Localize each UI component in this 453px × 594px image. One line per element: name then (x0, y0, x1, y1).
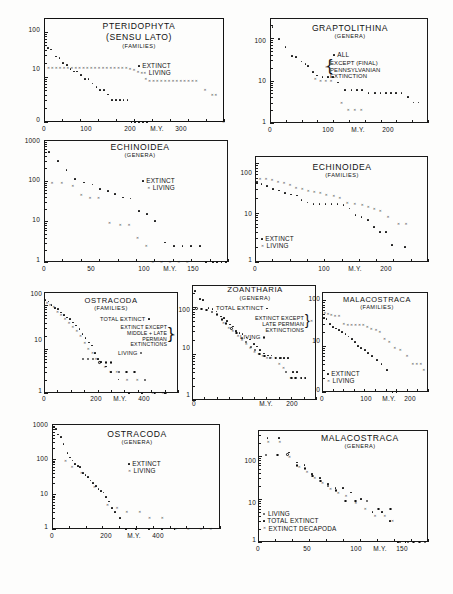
data-point: × (209, 528, 212, 531)
data-point: × (367, 206, 370, 209)
data-point (404, 246, 406, 248)
data-point: × (319, 80, 322, 83)
data-point: × (277, 181, 280, 184)
data-point: × (347, 109, 350, 112)
data-point: × (289, 184, 292, 187)
axis-tick (258, 456, 262, 457)
data-point: × (364, 508, 367, 511)
x-axis-unit-label: M.Y. (379, 396, 399, 403)
data-point: × (374, 329, 377, 332)
data-point: × (125, 511, 128, 514)
data-point (148, 528, 150, 530)
y-tick-label: 1000 (14, 138, 40, 145)
x-tick-label: 50 (84, 266, 98, 273)
axis-tick (52, 438, 55, 439)
data-point: × (325, 194, 328, 197)
data-point: × (164, 80, 167, 83)
legend: EXTINCT ×LIVING (261, 235, 294, 250)
data-point (291, 55, 293, 57)
axis-tick (255, 183, 258, 184)
data-point (332, 76, 334, 78)
axis-tick (52, 427, 55, 428)
axis-tick (258, 512, 261, 513)
legend-marker-open-circle (263, 336, 265, 338)
axis-tick (270, 55, 273, 56)
axis-tick (411, 539, 412, 542)
data-point (96, 86, 98, 88)
axis-tick (270, 18, 273, 19)
axis-tick (52, 448, 55, 449)
axis-tick (44, 367, 47, 368)
axis-tick (44, 100, 47, 101)
axis-tick (192, 378, 195, 379)
data-point: × (52, 306, 55, 309)
data-point (354, 341, 356, 343)
axis-tick (255, 178, 258, 179)
data-point: × (55, 67, 58, 70)
data-point (311, 473, 313, 475)
axis-tick (270, 45, 273, 46)
x-tick-label: 400 (150, 533, 166, 540)
data-point: × (129, 68, 132, 71)
axis-tick (258, 458, 261, 459)
data-point: × (393, 347, 396, 350)
axis-tick (84, 390, 85, 393)
data-point: × (391, 520, 394, 523)
y-tick-label: 100 (230, 170, 252, 177)
data-point: × (70, 67, 73, 70)
data-point: × (231, 330, 234, 333)
axis-tick (52, 470, 55, 471)
data-point: × (51, 182, 54, 185)
data-point: × (342, 323, 345, 326)
axis-tick (44, 187, 47, 188)
data-point: × (388, 341, 391, 344)
axis-tick (192, 356, 195, 357)
y-tick-label: 10 (302, 338, 320, 345)
axis-tick (44, 225, 47, 226)
data-point: × (278, 363, 281, 366)
legend-label: EXTINCT (142, 62, 171, 69)
data-point: × (379, 210, 382, 213)
legend-living: LIVING (118, 350, 142, 356)
axis-tick (44, 221, 48, 222)
axis-tick (99, 259, 100, 262)
axis-tick (52, 473, 55, 474)
axis-tick (206, 119, 207, 122)
data-point (272, 188, 274, 190)
axis-tick (52, 483, 55, 484)
data-point (397, 541, 399, 543)
data-point: × (288, 456, 291, 459)
data-point: × (152, 80, 155, 83)
data-point: × (60, 182, 63, 185)
axis-tick (192, 312, 195, 313)
axis-tick (44, 309, 47, 310)
axis-tick (153, 526, 154, 529)
data-point (57, 160, 59, 162)
data-point: × (97, 67, 100, 70)
y-tick-label: 0 (302, 387, 320, 394)
panel-title: OSTRACODA (84, 430, 190, 439)
axis-tick (44, 42, 47, 43)
axis-tick (44, 32, 48, 33)
panel-subtitle: (GENERA) (300, 444, 420, 450)
data-point (47, 47, 49, 49)
y-tick-label: 0 (20, 117, 40, 124)
axis-tick (44, 77, 48, 78)
axis-tick (255, 224, 258, 225)
data-point: × (378, 331, 381, 334)
axis-tick (255, 174, 258, 175)
axis-tick (136, 259, 137, 262)
axis-tick (170, 119, 171, 122)
legend-label: TOTAL EXTINCT (267, 517, 318, 524)
data-point (351, 338, 353, 340)
legend-marker-cross: × (310, 320, 313, 323)
axis-tick (44, 259, 45, 262)
x-axis-unit-label: M.Y. (348, 127, 368, 134)
axis-tick (322, 346, 326, 347)
data-point (211, 311, 213, 313)
axis-tick (192, 314, 195, 315)
axis-tick (44, 312, 47, 313)
data-point: × (125, 67, 128, 70)
data-point: × (267, 441, 270, 444)
data-point: × (353, 109, 356, 112)
